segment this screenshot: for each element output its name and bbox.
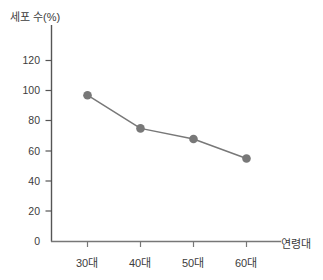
y-axis-ticks [46, 61, 52, 212]
data-point-40대 [136, 124, 145, 133]
data-point-30대 [83, 91, 92, 100]
data-line-series-1 [88, 95, 247, 158]
plot-area [0, 0, 323, 280]
data-markers-group [83, 91, 251, 163]
chart-container: 세포 수(%) 연령대 120 100 80 60 40 20 0 30대 40… [0, 0, 323, 280]
data-point-60대 [242, 154, 251, 163]
data-point-50대 [189, 135, 198, 144]
x-axis-ticks [88, 242, 247, 248]
